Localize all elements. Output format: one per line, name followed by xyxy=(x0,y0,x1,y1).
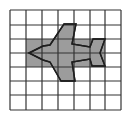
grid-airplane-figure xyxy=(0,0,130,115)
